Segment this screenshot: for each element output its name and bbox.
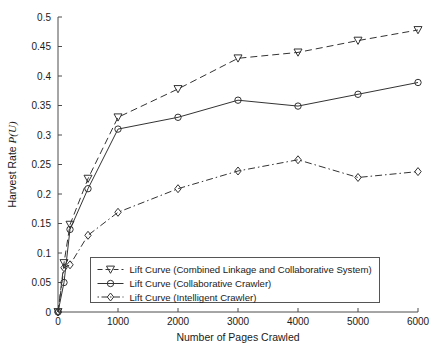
y-tick-label-0: 0: [45, 307, 51, 318]
marker-triangle-down: [114, 114, 122, 121]
marker-diamond: [175, 185, 181, 193]
marker-triangle-down: [174, 86, 182, 93]
y-tick-label-5: 0.25: [32, 159, 52, 170]
x-tick-label-6: 6000: [407, 316, 430, 327]
y-tick-label-8: 0.4: [37, 71, 51, 82]
marker-diamond: [115, 208, 121, 216]
x-tick-label-4: 4000: [287, 316, 310, 327]
y-tick-label-7: 0.35: [32, 100, 52, 111]
marker-diamond: [85, 231, 91, 239]
chart-figure: 0100020003000400050006000 00.050.10.150.…: [0, 0, 445, 356]
x-tick-label-3: 3000: [227, 316, 250, 327]
y-tick-label-9: 0.45: [32, 41, 52, 52]
marker-triangle-down: [354, 37, 362, 44]
marker-diamond: [415, 168, 421, 176]
legend-label-2: Lift Curve (Intelligent Crawler): [130, 292, 257, 303]
x-tick-label-5: 5000: [347, 316, 370, 327]
y-tick-label-3: 0.15: [32, 218, 52, 229]
x-tick-label-2: 2000: [167, 316, 190, 327]
y-tick-label-6: 0.3: [37, 130, 51, 141]
y-tick-label-1: 0.05: [32, 277, 52, 288]
y-axis-title-plain: Harvest Rate: [6, 143, 18, 207]
y-axis-title-italic: P(U): [6, 121, 19, 144]
marker-diamond: [355, 173, 361, 181]
line-chart: 0100020003000400050006000 00.050.10.150.…: [0, 0, 445, 356]
chart-legend: Lift Curve (Combined Linkage and Collabo…: [91, 258, 380, 303]
legend-label-1: Lift Curve (Collaborative Crawler): [130, 278, 272, 289]
x-axis-title: Number of Pages Crawled: [176, 331, 299, 343]
x-tick-labels: 0100020003000400050006000: [55, 316, 429, 327]
legend-label-0: Lift Curve (Combined Linkage and Collabo…: [130, 264, 372, 275]
x-tick-label-1: 1000: [107, 316, 130, 327]
y-tick-label-10: 0.5: [37, 12, 51, 23]
y-tick-label-2: 0.1: [37, 248, 51, 259]
y-axis-title: Harvest Rate P(U): [6, 121, 19, 208]
svg-text:Harvest Rate P(U): Harvest Rate P(U): [6, 121, 19, 208]
x-tick-label-0: 0: [55, 316, 61, 327]
y-tick-labels: 00.050.10.150.20.250.30.350.40.450.5: [32, 12, 52, 318]
y-tick-label-4: 0.2: [37, 189, 51, 200]
